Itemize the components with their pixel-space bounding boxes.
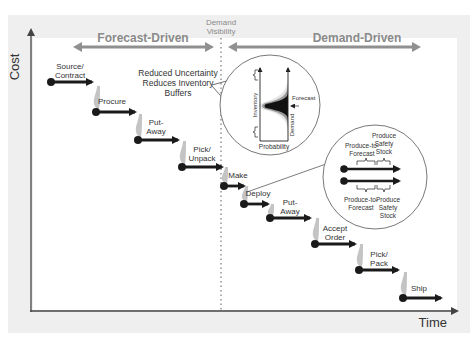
step-start-dot	[240, 200, 248, 208]
buffer-arrow-2-dot	[340, 177, 348, 185]
uncertainty-text-line1: Reduced Uncertainty	[138, 68, 218, 78]
forecast-driven-label: Forecast-Driven	[97, 31, 188, 45]
step-start-dot	[311, 240, 319, 248]
buffer-arrow-1-dot	[340, 165, 348, 173]
step-label-line2: Away	[146, 127, 165, 136]
bottom-right-label-line3: Stock	[380, 212, 397, 219]
demand-label: Demand	[289, 114, 295, 137]
step-label-line1: Pick/	[370, 250, 388, 259]
step-start-dot	[178, 163, 186, 171]
y-axis-label: Cost	[7, 53, 22, 80]
step-start-dot	[399, 294, 407, 302]
step-label-line2: Pack	[370, 259, 389, 268]
step-label-line1: Put-	[283, 198, 298, 207]
step-start-dot	[134, 136, 142, 144]
uncertainty-text-line3: Buffers	[165, 88, 192, 98]
step-label-line1: Make	[228, 171, 248, 180]
forecast-label: Forecast	[292, 95, 316, 101]
step-label-line1: Source/	[56, 62, 84, 71]
step-label-line2: Order	[325, 233, 346, 242]
divider-label-line2: Visibility	[207, 27, 236, 36]
top-right-label-line2: Safety	[375, 140, 394, 148]
bottom-right-label-line2: Safety	[379, 204, 398, 212]
step-start-dot	[92, 108, 100, 116]
divider-label-line1: Demand	[206, 18, 236, 27]
step-label-line2: Unpack	[188, 154, 216, 163]
bottom-left-label-line2: Forecast	[348, 204, 373, 211]
step-label-line1: Ship	[411, 284, 428, 293]
step-start-dot	[220, 182, 228, 190]
step-start-dot	[266, 214, 274, 222]
step-label-line1: Deploy	[246, 189, 271, 198]
step-label-line1: Pick/	[193, 145, 211, 154]
x-axis-label: Time	[419, 315, 447, 330]
step-start-dot	[47, 78, 55, 86]
step-label-line1: Procure	[98, 97, 127, 106]
supply-chain-diagram: Cost Time Demand Visibility Forecast-Dri…	[0, 0, 475, 337]
bottom-right-label-line1: Produce	[376, 196, 401, 203]
bottom-left-label-line1: Produce-to-	[344, 196, 378, 203]
step-label-line2: Contract	[55, 71, 86, 80]
top-right-label-line1: Produce	[372, 132, 397, 139]
uncertainty-text-line2: Reduces Inventory	[143, 78, 215, 88]
step-label-line1: Put-	[149, 118, 164, 127]
demand-driven-label: Demand-Driven	[313, 31, 402, 45]
top-right-label-line3: Stock	[376, 148, 393, 155]
top-left-label-line2: Forecast	[349, 150, 374, 157]
probability-label: Probability	[259, 143, 290, 151]
step-label-line2: Away	[280, 207, 299, 216]
step-label-line1: Accept	[323, 224, 348, 233]
step-start-dot	[355, 266, 363, 274]
inventory-label: Inventory	[252, 93, 258, 118]
